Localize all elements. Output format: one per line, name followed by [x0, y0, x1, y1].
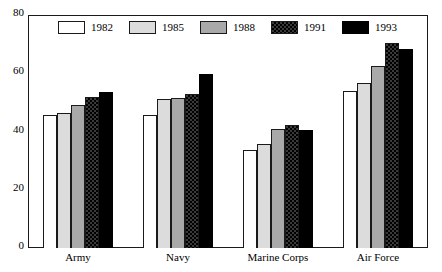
plot-area	[28, 15, 428, 248]
bar[interactable]	[371, 66, 385, 248]
legend-swatch-icon	[129, 21, 156, 34]
bar-group	[243, 15, 313, 248]
legend-label: 1988	[233, 22, 255, 33]
bar[interactable]	[143, 115, 157, 248]
bar[interactable]	[171, 98, 185, 248]
legend-item[interactable]: 1991	[271, 21, 326, 34]
bar[interactable]	[185, 94, 199, 248]
legend-swatch-icon	[342, 21, 369, 34]
legend: 19821985198819911993	[58, 21, 413, 34]
y-axis-tick-label: 0	[19, 240, 25, 251]
bar[interactable]	[57, 113, 71, 248]
bar-group	[343, 15, 413, 248]
bar[interactable]	[43, 115, 57, 248]
bar[interactable]	[257, 144, 271, 248]
bar[interactable]	[399, 49, 413, 249]
y-axis-tick-label: 40	[13, 124, 24, 135]
legend-label: 1991	[304, 22, 326, 33]
y-axis-tick-label: 60	[13, 65, 24, 76]
bar[interactable]	[343, 91, 357, 248]
y-axis-tick-label: 80	[13, 7, 24, 18]
x-axis-label: Air Force	[328, 250, 428, 270]
legend-swatch-icon	[58, 21, 85, 34]
legend-item[interactable]: 1985	[129, 21, 184, 34]
bar[interactable]	[285, 125, 299, 248]
x-axis-label: Army	[28, 250, 128, 270]
bar[interactable]	[157, 99, 171, 248]
x-axis-label: Navy	[128, 250, 228, 270]
legend-item[interactable]: 1993	[342, 21, 397, 34]
bar-chart-figure: 020406080 ArmyNavyMarine CorpsAir Force …	[0, 0, 442, 272]
bar[interactable]	[299, 130, 313, 248]
y-axis: 020406080	[0, 0, 28, 272]
bar[interactable]	[99, 92, 113, 248]
legend-item[interactable]: 1988	[200, 21, 255, 34]
bar[interactable]	[271, 129, 285, 248]
bar[interactable]	[85, 97, 99, 248]
legend-item[interactable]: 1982	[58, 21, 113, 34]
legend-swatch-icon	[271, 21, 298, 34]
legend-swatch-icon	[200, 21, 227, 34]
bar[interactable]	[199, 74, 213, 248]
bar[interactable]	[385, 43, 399, 248]
x-axis: ArmyNavyMarine CorpsAir Force	[28, 250, 428, 270]
legend-label: 1985	[162, 22, 184, 33]
bar[interactable]	[243, 150, 257, 248]
bar-groups	[28, 15, 428, 248]
bar-group	[143, 15, 213, 248]
legend-label: 1993	[375, 22, 397, 33]
bar[interactable]	[71, 105, 85, 248]
y-axis-tick-label: 20	[13, 182, 24, 193]
bar-group	[43, 15, 113, 248]
x-axis-label: Marine Corps	[228, 250, 328, 270]
legend-label: 1982	[91, 22, 113, 33]
bar[interactable]	[357, 83, 371, 248]
